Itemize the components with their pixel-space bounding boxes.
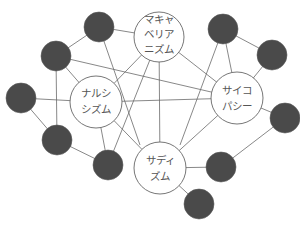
node-label: パシー [222, 100, 252, 112]
node-dark [93, 150, 123, 180]
node-dark [270, 103, 300, 133]
node-dark [257, 40, 287, 70]
node-label: サディ [146, 154, 175, 166]
node-label: ナルシ [81, 87, 111, 99]
node-dark [184, 189, 214, 219]
node-dark [41, 41, 71, 71]
node-dark [208, 14, 238, 44]
node-label: ズム [150, 170, 170, 182]
node-label: ニズム [144, 43, 174, 55]
node-sadism: サディ ズム [134, 142, 186, 194]
node-label: サイコ [222, 84, 252, 96]
node-label: マキャ [144, 13, 174, 25]
network-diagram: マキャ ベリア ニズム ナルシ シズム サイコ パシー サディ ズム [0, 0, 300, 228]
node-dark [42, 125, 72, 155]
node-machiavellianism: マキャ ベリア ニズム [134, 12, 184, 62]
node-dark [206, 152, 236, 182]
node-narcissism: ナルシ シズム [70, 76, 122, 128]
node-dark [84, 12, 114, 42]
node-dark [6, 83, 36, 113]
node-label: シズム [81, 103, 111, 115]
node-psychopathy: サイコ パシー [211, 72, 263, 124]
node-label: ベリア [144, 28, 174, 40]
